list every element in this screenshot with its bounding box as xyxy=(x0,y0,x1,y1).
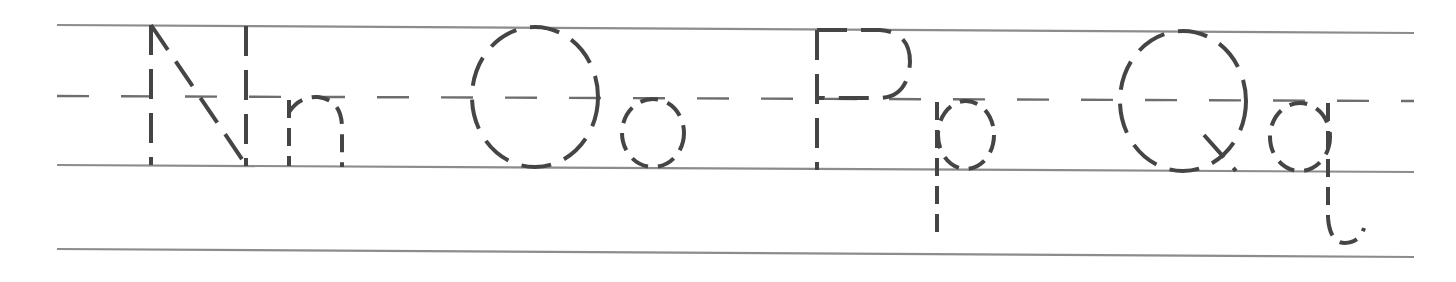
tracing-worksheet: Letter tracing practice xyxy=(0,0,1456,282)
worksheet-canvas xyxy=(0,0,1456,282)
letter-o-lowercase xyxy=(622,99,684,167)
letter-n-lowercase xyxy=(289,97,342,167)
midline-dashed-guide xyxy=(57,96,1414,101)
letter-p-lowercase xyxy=(937,101,994,242)
letter-q-lowercase xyxy=(1270,103,1364,243)
baseline-guide xyxy=(57,165,1414,172)
top-guide-line xyxy=(57,25,1414,33)
descender-guide-line xyxy=(57,249,1414,257)
